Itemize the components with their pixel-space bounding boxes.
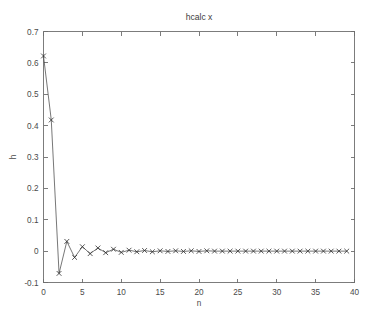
y-axis-label: h — [9, 154, 18, 159]
x-tick-label: 15 — [156, 288, 166, 297]
x-tick-label: 40 — [350, 288, 360, 297]
y-tick-label: 0.4 — [27, 122, 39, 131]
y-tick-label: 0.3 — [27, 153, 39, 162]
data-point-marker — [88, 251, 93, 256]
x-tick-label: 10 — [117, 288, 127, 297]
data-series-line — [44, 56, 347, 273]
page-title: hcalc x — [186, 12, 213, 22]
y-tick-label: 0 — [34, 247, 39, 256]
y-axis-ticks — [44, 32, 355, 283]
data-point-marker — [80, 244, 85, 249]
y-axis-tick-labels: -0.100.10.20.30.40.50.60.7 — [24, 28, 39, 288]
x-tick-label: 35 — [311, 288, 321, 297]
x-tick-label: 30 — [272, 288, 282, 297]
x-tick-label: 0 — [41, 288, 46, 297]
x-axis-ticks — [44, 32, 355, 283]
x-tick-label: 5 — [80, 288, 85, 297]
y-tick-label: 0.7 — [27, 28, 39, 37]
y-tick-label: 0.1 — [27, 216, 39, 225]
data-point-marker — [96, 246, 101, 251]
data-series-markers — [41, 54, 349, 276]
x-axis-label: n — [197, 299, 202, 308]
x-tick-label: 20 — [194, 288, 204, 297]
figure-canvas: hcalc x 0510152025303540 -0.100.10.20.30… — [0, 0, 376, 315]
plot-area: hcalc x 0510152025303540 -0.100.10.20.30… — [0, 0, 376, 315]
y-tick-label: -0.1 — [24, 279, 39, 288]
data-point-marker — [64, 239, 69, 244]
y-tick-label: 0.5 — [27, 90, 39, 99]
x-axis-tick-labels: 0510152025303540 — [41, 288, 359, 297]
data-point-marker — [103, 250, 108, 255]
y-tick-label: 0.6 — [27, 59, 39, 68]
data-point-marker — [72, 255, 77, 260]
y-tick-label: 0.2 — [27, 184, 39, 193]
data-point-marker — [111, 247, 116, 252]
x-tick-label: 25 — [233, 288, 243, 297]
data-point-marker — [119, 250, 124, 255]
axis-box — [44, 32, 355, 283]
